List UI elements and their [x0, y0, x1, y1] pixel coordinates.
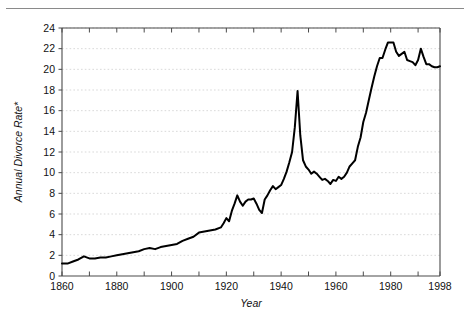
y-tick-label: 12	[43, 146, 55, 158]
y-tick-label: 6	[49, 208, 55, 220]
data-series-line	[62, 42, 440, 263]
grid-lines	[62, 28, 440, 255]
y-axis-tick-labels: 024681012141618202224	[43, 22, 55, 282]
y-tick-label: 2	[49, 249, 55, 261]
y-tick-label: 8	[49, 187, 55, 199]
figure-container: 024681012141618202224 186018801900192019…	[0, 0, 470, 323]
y-tick-label: 10	[43, 166, 55, 178]
x-axis-ticks	[62, 28, 440, 276]
y-tick-label: 20	[43, 63, 55, 75]
x-axis-tick-labels: 18601880190019201940196019801998	[50, 280, 452, 292]
y-tick-label: 24	[43, 22, 55, 34]
y-tick-label: 4	[49, 228, 55, 240]
x-tick-label: 1940	[269, 280, 293, 292]
x-tick-label: 1880	[105, 280, 129, 292]
y-axis-title: Annual Divorce Rate*	[12, 101, 24, 203]
y-tick-label: 16	[43, 104, 55, 116]
x-tick-label: 1920	[215, 280, 239, 292]
x-tick-label: 1900	[160, 280, 184, 292]
x-tick-label: 1980	[379, 280, 403, 292]
y-tick-label: 18	[43, 84, 55, 96]
y-tick-label: 14	[43, 125, 55, 137]
x-tick-label: 1998	[428, 280, 452, 292]
x-tick-label: 1860	[50, 280, 74, 292]
x-axis-title: Year	[240, 297, 262, 309]
y-tick-label: 22	[43, 42, 55, 54]
divorce-rate-line-chart: 024681012141618202224 186018801900192019…	[0, 0, 470, 323]
x-tick-label: 1960	[324, 280, 348, 292]
